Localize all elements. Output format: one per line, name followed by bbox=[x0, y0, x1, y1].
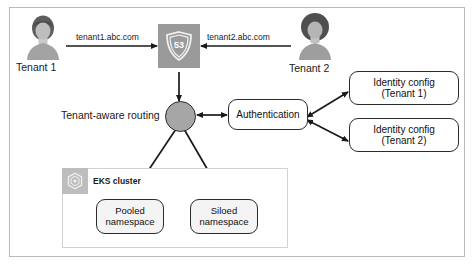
diagram-canvas: Tenant 1 Tenant 2 tenant1.abc.com tenant… bbox=[0, 0, 476, 267]
pooled-namespace-line1: Pooled bbox=[115, 205, 145, 216]
identity-config-1-line2: (Tenant 1) bbox=[381, 88, 426, 99]
siloed-namespace-line1: Siloed bbox=[211, 205, 237, 216]
siloed-namespace-line2: namespace bbox=[199, 216, 248, 227]
tenant-aware-routing-node bbox=[165, 101, 196, 132]
tenant-2-label: Tenant 2 bbox=[289, 62, 329, 74]
edge-label-tenant2-domain: tenant2.abc.com bbox=[207, 32, 270, 42]
tenant-1-label: Tenant 1 bbox=[16, 61, 56, 73]
identity-config-1-line1: Identity config bbox=[373, 77, 435, 88]
pooled-namespace-line2: namespace bbox=[105, 216, 154, 227]
tenant-aware-routing-label: Tenant-aware routing bbox=[61, 109, 160, 121]
route53-icon: 53 bbox=[158, 24, 200, 68]
route53-badge-text: 53 bbox=[174, 40, 184, 50]
siloed-namespace-box: Siloed namespace bbox=[190, 199, 258, 234]
avatar-tenant-2 bbox=[292, 12, 338, 60]
identity-config-tenant-2-box: Identity config (Tenant 2) bbox=[349, 118, 459, 152]
eks-hexagon-icon bbox=[62, 168, 88, 194]
identity-config-2-line2: (Tenant 2) bbox=[381, 135, 426, 146]
arrow-auth-to-identity-1 bbox=[307, 92, 348, 117]
identity-config-2-line1: Identity config bbox=[373, 124, 435, 135]
authentication-box: Authentication bbox=[228, 99, 308, 130]
arrow-auth-to-identity-2 bbox=[307, 120, 348, 141]
pooled-namespace-box: Pooled namespace bbox=[96, 199, 164, 234]
eks-cluster-label: EKS cluster bbox=[93, 176, 141, 186]
authentication-label: Authentication bbox=[236, 109, 299, 120]
avatar-tenant-1 bbox=[21, 14, 65, 60]
identity-config-tenant-1-box: Identity config (Tenant 1) bbox=[349, 71, 459, 105]
edge-label-tenant1-domain: tenant1.abc.com bbox=[76, 32, 139, 42]
